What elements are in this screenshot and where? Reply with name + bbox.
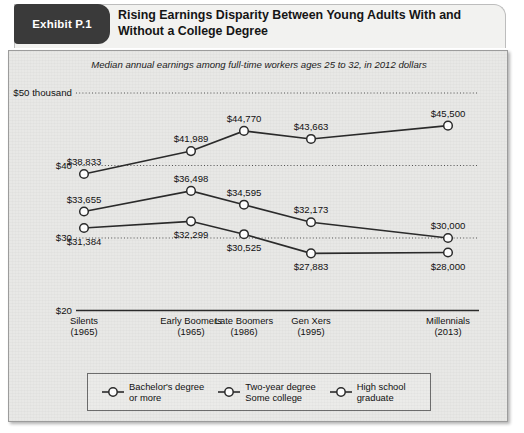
exhibit-badge-label: Exhibit P.1: [32, 18, 92, 30]
legend-item: High schoolgraduate: [330, 381, 406, 404]
chart-data-point: [240, 200, 249, 209]
chart-data-label: $41,989: [161, 133, 221, 144]
legend-marker-icon: [218, 386, 240, 398]
chart-data-label: $33,655: [54, 194, 114, 205]
chart-data-point: [307, 218, 316, 227]
chart-legend: Bachelor's degreeor moreTwo-year degreeS…: [87, 373, 431, 411]
legend-label: Two-year degreeSome college: [245, 381, 315, 404]
exhibit-figure: Exhibit P.1 Rising Earnings Disparity Be…: [0, 0, 524, 433]
legend-marker-icon: [102, 386, 124, 398]
chart-data-point: [80, 224, 89, 233]
chart-data-label: $27,883: [281, 261, 341, 272]
chart-data-point: [80, 207, 89, 216]
chart-data-point: [80, 170, 89, 179]
chart-series-line: [84, 126, 448, 174]
legend-marker-icon: [330, 386, 352, 398]
chart-data-label: $32,173: [281, 204, 341, 215]
chart-series-line: [84, 191, 448, 238]
chart-data-point: [307, 249, 316, 258]
chart-data-point: [187, 217, 196, 226]
legend-label: Bachelor's degreeor more: [129, 381, 204, 404]
chart-data-label: $32,299: [161, 229, 221, 240]
chart-data-point: [187, 187, 196, 196]
chart-data-label: $30,000: [418, 220, 478, 231]
chart-data-point: [307, 135, 316, 144]
chart-data-point: [240, 127, 249, 136]
chart-data-point: [444, 234, 453, 243]
chart-data-label: $34,595: [214, 187, 274, 198]
chart-data-label: $43,663: [281, 121, 341, 132]
chart-data-point: [187, 147, 196, 156]
legend-item: Two-year degreeSome college: [218, 381, 315, 404]
chart-data-point: [240, 230, 249, 239]
chart-data-label: $44,770: [214, 113, 274, 124]
chart-data-label: $45,500: [418, 108, 478, 119]
chart-data-label: $36,498: [161, 173, 221, 184]
chart-x-tick-label: Silents(1965): [44, 315, 124, 338]
exhibit-title: Rising Earnings Disparity Between Young …: [118, 8, 498, 39]
chart-data-label: $30,525: [214, 242, 274, 253]
chart-panel: Median annual earnings among full-time w…: [8, 50, 508, 422]
chart-y-tick-label: $50 thousand: [13, 87, 72, 98]
legend-label: High schoolgraduate: [357, 381, 406, 404]
chart-data-point: [444, 248, 453, 257]
exhibit-badge: Exhibit P.1: [14, 4, 110, 44]
chart-data-label: $28,000: [418, 261, 478, 272]
chart-x-tick-label: Gen Xers(1995): [271, 315, 351, 338]
chart-plot-area: $50 thousand$40$30$20Silents(1965)Early …: [9, 51, 508, 422]
chart-data-label: $38,833: [54, 156, 114, 167]
chart-data-point: [444, 121, 453, 130]
chart-data-label: $31,384: [54, 236, 114, 247]
legend-item: Bachelor's degreeor more: [102, 381, 204, 404]
chart-x-tick-label: Millennials(2013): [408, 315, 488, 338]
